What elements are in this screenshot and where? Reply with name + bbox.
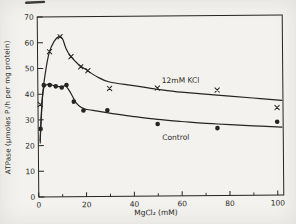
data-point-dot-control: [38, 127, 43, 132]
data-point-dot-control: [81, 108, 86, 113]
data-point-dot-control: [59, 85, 64, 90]
figure-page: 010203040506070020406080100 12mM KCl Con…: [0, 0, 296, 224]
x-tick-label: 80: [225, 199, 235, 208]
y-tick-label: 10: [25, 167, 35, 176]
data-point-dot-control: [215, 126, 220, 131]
data-point-dot-control: [41, 83, 46, 88]
data-point-x-marker-12mm-kcl: [107, 86, 111, 90]
scan-artifact-smudge: [25, 1, 45, 4]
x-axis-title: MgCl₂ (mM): [134, 208, 178, 217]
y-tick-label: 30: [25, 116, 35, 125]
scan-tilt-group: 010203040506070020406080100 12mM KCl Con…: [3, 0, 285, 218]
data-point-dot-control: [53, 84, 58, 89]
series-curve-control: [40, 82, 282, 143]
plot-layer: 010203040506070020406080100: [24, 11, 285, 210]
series-curve-12mm-kcl: [39, 35, 282, 141]
series-label-control: Control: [162, 133, 189, 142]
data-point-dot-control: [105, 108, 110, 113]
y-tick-label: 50: [25, 64, 35, 73]
y-tick-label: 20: [25, 141, 35, 150]
plot-frame: [37, 15, 284, 197]
atpase-vs-mgcl2-chart: 010203040506070020406080100 12mM KCl Con…: [0, 0, 296, 224]
data-point-x-marker-12mm-kcl: [275, 105, 279, 109]
x-tick-label: 20: [82, 200, 92, 209]
y-tick-label: 70: [24, 13, 34, 22]
y-tick-label: 60: [24, 39, 34, 48]
data-point-dot-control: [71, 99, 76, 104]
data-point-dot-control: [155, 122, 160, 127]
data-point-x-marker-12mm-kcl: [215, 88, 219, 92]
y-tick-label: 0: [30, 193, 35, 202]
data-point-dot-control: [47, 83, 52, 88]
x-tick-label: 0: [36, 201, 41, 210]
data-point-dot-control: [275, 119, 280, 124]
x-tick-label: 100: [271, 198, 286, 207]
y-tick-label: 40: [25, 90, 35, 99]
data-point-dot-control: [64, 83, 69, 88]
x-tick-label: 60: [177, 199, 187, 208]
series-label-12mm-kcl: 12mM KCl: [162, 76, 200, 85]
y-axis-title: ATPase (μmoles Pᵢ/h per mg protein): [3, 40, 12, 174]
data-point-x-marker-12mm-kcl: [69, 54, 73, 58]
